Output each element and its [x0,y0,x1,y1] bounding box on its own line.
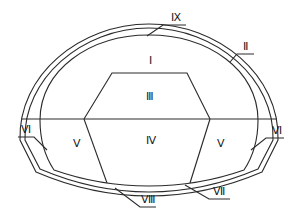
region-IV-left-boundary [84,119,107,183]
region-label-V-left: Ⅴ [73,137,81,149]
callout-label-II: Ⅱ [243,40,248,52]
outer-lining-outline [20,24,278,196]
region-label-III: Ⅲ [146,90,154,102]
callout-leader-II [230,54,254,62]
callout-label-VI-right: Ⅵ [272,124,282,136]
middle-lining-outline [25,28,273,192]
region-IV-right-boundary [190,119,210,183]
callout-label-VII: Ⅶ [213,185,225,197]
callout-label-IX: Ⅸ [171,11,181,23]
region-label-I: Ⅰ [149,54,152,66]
region-label-IV: Ⅳ [146,134,157,146]
callout-leader-IX [147,25,186,36]
callout-label-VIII: Ⅷ [141,193,155,205]
tunnel-section-diagram: Ⅰ Ⅲ Ⅳ Ⅴ Ⅴ Ⅸ Ⅱ Ⅵ Ⅵ Ⅶ Ⅷ [0,0,298,220]
region-label-V-right: Ⅴ [217,137,225,149]
callout-label-VI-left: Ⅵ [21,123,31,135]
